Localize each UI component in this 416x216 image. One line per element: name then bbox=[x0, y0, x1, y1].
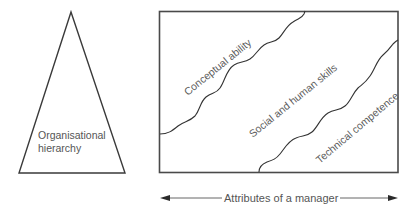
axis-label: Attributes of a manager bbox=[222, 192, 340, 204]
hierarchy-label-line-2: hierarchy bbox=[38, 142, 106, 155]
hierarchy-label-line-1: Organisational bbox=[38, 129, 106, 142]
arrowhead-left-icon bbox=[160, 195, 170, 201]
arrowhead-right-icon bbox=[388, 195, 398, 201]
diagram-canvas bbox=[0, 0, 416, 216]
hierarchy-label: Organisational hierarchy bbox=[38, 129, 106, 155]
